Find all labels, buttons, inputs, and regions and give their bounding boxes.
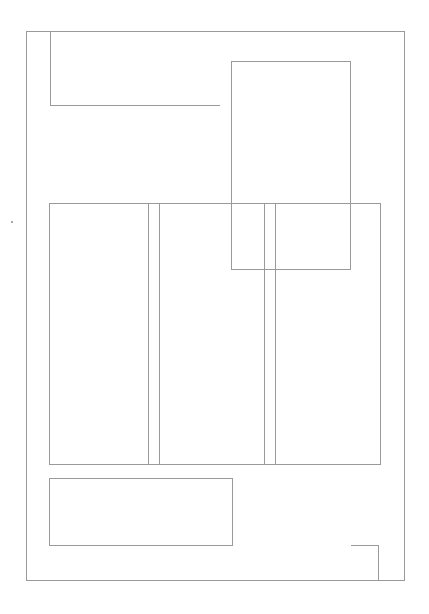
wireframe-canvas bbox=[0, 0, 429, 614]
top-left-bracket-horizontal bbox=[50, 105, 220, 106]
bottom-left-rect bbox=[49, 478, 233, 546]
top-left-bracket-vertical bbox=[50, 31, 51, 105]
column-row bbox=[49, 203, 381, 465]
bottom-right-bracket-horizontal bbox=[351, 545, 379, 546]
column-divider-2a bbox=[264, 203, 265, 464]
bottom-right-bracket-vertical bbox=[378, 545, 379, 580]
column-divider-1b bbox=[159, 203, 160, 464]
stray-dot bbox=[11, 221, 13, 223]
column-divider-1a bbox=[148, 203, 149, 464]
column-divider-2b bbox=[275, 203, 276, 464]
